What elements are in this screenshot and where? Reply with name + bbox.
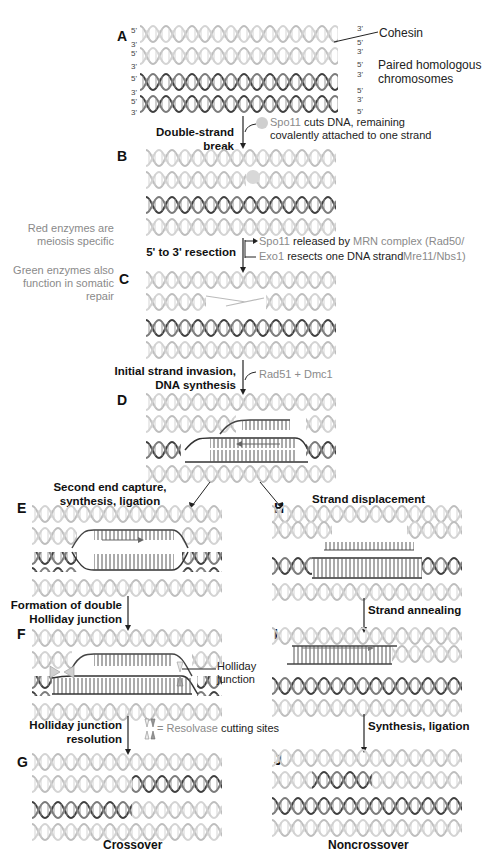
enzyme-name: MRN complex (Rad50/ xyxy=(353,235,464,247)
label-line: function in somatic xyxy=(0,277,114,290)
panel-label-g: G xyxy=(17,754,28,770)
step-resection: 5' to 3' resection xyxy=(130,245,236,259)
arrow-down xyxy=(124,716,134,756)
strand-end: 5' xyxy=(357,107,363,116)
label-line: Red enzymes are xyxy=(0,222,114,235)
outcome-noncrossover: Noncrossover xyxy=(328,838,409,852)
legend-red-enzymes: Red enzymes are meiosis specific xyxy=(0,222,114,248)
label-line: covalently attached to one strand xyxy=(270,129,431,142)
label-text: cuts DNA, remaining xyxy=(301,116,405,128)
exo1-annotation: Exo1 resects one DNA strand xyxy=(259,250,403,263)
dna-helix xyxy=(32,752,222,774)
label-line: Holliday junction xyxy=(0,718,122,732)
dna-helix xyxy=(146,340,336,362)
label-line: meiosis specific xyxy=(0,235,114,248)
dna-helix xyxy=(146,440,336,462)
enzyme-name: Resolvase xyxy=(167,722,218,734)
panel-label-e: E xyxy=(17,500,26,516)
panel-label-d: D xyxy=(117,392,127,408)
dna-helix xyxy=(272,818,462,840)
cohesin-label: Cohesin xyxy=(379,27,423,40)
legend-green-enzymes: Green enzymes also function in somatic r… xyxy=(0,264,114,303)
holliday-junction-label: Holliday junction xyxy=(217,660,256,686)
holliday-leader-line xyxy=(182,667,216,671)
label-line: Second end capture, xyxy=(40,480,180,494)
enzyme-name: Spo11 xyxy=(270,116,301,128)
label-line: Holliday xyxy=(217,660,256,673)
step-double-holliday: Formation of double Holliday junction xyxy=(0,598,122,626)
panel-label-c: C xyxy=(119,271,129,287)
dna-helix xyxy=(140,24,338,46)
spo11-cut-annotation: Spo11 cuts DNA, remaining covalently att… xyxy=(270,116,431,142)
dna-helix xyxy=(272,770,462,792)
label-line: DNA synthesis xyxy=(110,378,236,392)
strand-end: 5' xyxy=(357,60,363,69)
step-synthesis-ligation: Synthesis, ligation xyxy=(368,719,470,733)
label-line: repair xyxy=(0,290,114,303)
label-text: resects one DNA strand xyxy=(284,250,403,262)
curve-arrow xyxy=(244,370,258,382)
enzyme-name: Exo1 xyxy=(259,250,284,262)
strand-end: 3' xyxy=(131,88,137,97)
dna-helix xyxy=(32,800,222,822)
panel-label-b: B xyxy=(117,148,127,164)
enzyme-name: Spo11 xyxy=(259,235,290,247)
spo11-release-annotation: Spo11 released by MRN complex (Rad50/ xyxy=(259,235,464,248)
resolvase-site-icon xyxy=(144,718,156,740)
restored-helix xyxy=(272,556,462,582)
label-text: cutting sites xyxy=(218,722,279,734)
step-strand-invasion: Initial strand invasion, DNA synthesis xyxy=(110,364,236,392)
dna-helix xyxy=(146,392,336,414)
dna-helix xyxy=(146,318,336,340)
rad51-dmc1-annotation: Rad51 + Dmc1 xyxy=(259,368,333,381)
double-holliday-junction xyxy=(32,650,222,700)
equals-sign: = xyxy=(157,722,163,734)
paired-homologous-label: Paired homologous chromosomes xyxy=(378,58,481,86)
dna-helix-resected xyxy=(146,292,336,314)
label-line: Spo11 cuts DNA, remaining xyxy=(270,116,431,129)
dna-helix xyxy=(146,270,336,292)
dna-helix-broken xyxy=(272,520,462,542)
arrow-down xyxy=(124,596,134,632)
dna-helix xyxy=(32,774,222,796)
dna-helix xyxy=(146,195,336,217)
dna-helix xyxy=(140,46,338,68)
resolvase-legend: = Resolvase cutting sites xyxy=(157,722,279,735)
dna-helix xyxy=(272,796,462,818)
panel-label-f: F xyxy=(17,626,26,642)
cohesin-leader-line xyxy=(334,30,379,44)
spo11-protein-icon xyxy=(256,117,268,129)
dna-helix-broken xyxy=(146,170,336,192)
label-line: Holliday junction xyxy=(0,612,122,626)
dna-helix xyxy=(146,148,336,170)
label-line: junction xyxy=(217,673,256,686)
label-line: Green enzymes also xyxy=(0,264,114,277)
strand-end: 3' xyxy=(131,108,137,117)
label-line: Paired homologous xyxy=(378,58,481,72)
double-loop-structure xyxy=(32,526,222,576)
strand-end: 5' xyxy=(357,86,363,95)
label-line: Formation of double xyxy=(0,598,122,612)
strand-end: 3' xyxy=(357,47,363,56)
label-line: Initial strand invasion, xyxy=(110,364,236,378)
strand-end: 5' xyxy=(131,74,137,83)
dna-helix xyxy=(272,748,462,770)
dna-helix xyxy=(140,72,338,94)
panel-label-a: A xyxy=(117,28,127,44)
strand-end: 3' xyxy=(357,95,363,104)
displaced-strand xyxy=(320,540,420,554)
label-line: resolution xyxy=(0,732,122,746)
step-holliday-resolution: Holliday junction resolution xyxy=(0,718,122,746)
label-text: released by xyxy=(290,235,353,247)
strand-end: 3' xyxy=(357,70,363,79)
dna-helix xyxy=(32,504,222,526)
dna-helix xyxy=(32,628,222,650)
strand-end: 3' xyxy=(131,40,137,49)
dna-helix xyxy=(140,94,338,116)
strand-end: 5' xyxy=(131,97,137,106)
mrn-line2: Mre11/Nbs1) xyxy=(403,250,466,263)
label-line: chromosomes xyxy=(378,72,481,86)
outcome-crossover: Crossover xyxy=(103,838,162,852)
dna-helix xyxy=(272,676,462,698)
step-strand-annealing: Strand annealing xyxy=(368,603,461,617)
